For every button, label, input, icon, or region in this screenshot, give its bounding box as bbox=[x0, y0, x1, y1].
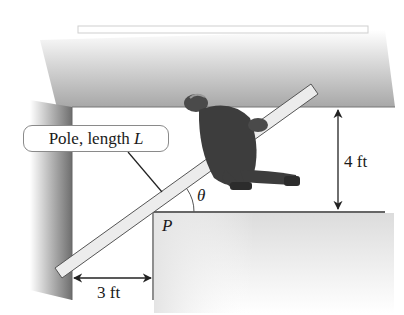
vertical-width-label: 4 ft bbox=[344, 153, 367, 170]
inner-corner-block bbox=[153, 212, 394, 313]
callout-leader-line bbox=[128, 152, 162, 192]
diagram: Pole, lengthL θ P 4 ft 3 ft bbox=[0, 0, 404, 315]
angle-arc bbox=[187, 189, 194, 212]
horizontal-width-label: 3 ft bbox=[97, 284, 120, 301]
corner-label: P bbox=[162, 217, 172, 234]
callout-variable: L bbox=[134, 129, 143, 149]
angle-label: θ bbox=[197, 187, 205, 204]
callout-text: Pole, length bbox=[49, 129, 130, 149]
pole-length-callout: Pole, lengthL bbox=[23, 125, 169, 152]
